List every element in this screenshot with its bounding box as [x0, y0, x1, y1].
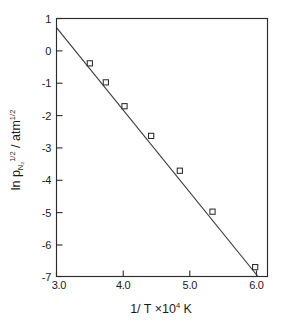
y-tick-label: -7	[42, 271, 51, 283]
y-tick-label: -1	[42, 77, 51, 89]
x-title-unit: K	[180, 302, 192, 316]
y-title-sup2: 1/2	[8, 110, 17, 120]
data-point	[210, 209, 215, 214]
plot-frame	[57, 19, 268, 277]
y-title-mid: / atm	[9, 120, 23, 151]
y-tick-label: 1	[45, 13, 51, 25]
y-tick-label: -2	[42, 110, 51, 122]
data-point	[122, 104, 127, 109]
y-tick-label: -5	[42, 207, 51, 219]
y-axis-title: ln pN₂1/2 / atm1/2	[8, 110, 25, 191]
y-tick-label: -4	[42, 174, 51, 186]
y-tick-label: 0	[45, 45, 51, 57]
data-markers	[87, 61, 258, 270]
data-point	[149, 133, 154, 138]
x-tick-label: 3.0	[52, 279, 67, 291]
y-tick-label: -3	[42, 142, 51, 154]
x-tick-label: 6.0	[249, 279, 264, 291]
data-point	[103, 80, 108, 85]
y-tick-label: -6	[42, 239, 51, 251]
chart-figure: 1 0 -1 -2 -3 -4 -5 -6 -7 3.0 4.0 5.0 6.0	[0, 0, 282, 328]
data-point	[253, 265, 258, 270]
x-tick-label: 4.0	[116, 279, 131, 291]
x-axis-ticks	[57, 271, 257, 277]
x-tick-label: 5.0	[183, 279, 198, 291]
y-axis-ticks	[57, 19, 63, 277]
svg-text:1/ T ×104 K: 1/ T ×104 K	[130, 301, 192, 316]
data-point	[87, 61, 92, 66]
y-title-sup: 1/2	[8, 151, 17, 161]
chart-svg: 1 0 -1 -2 -3 -4 -5 -6 -7 3.0 4.0 5.0 6.0	[0, 0, 282, 328]
svg-text:ln pN₂1/2 / atm1/2: ln pN₂1/2 / atm1/2	[8, 110, 25, 191]
x-axis-title: 1/ T ×104 K	[130, 301, 192, 316]
y-title-sub: N₂	[16, 162, 25, 170]
data-point	[177, 168, 182, 173]
x-title-main: 1/ T ×10	[130, 302, 176, 316]
y-title-lead: ln p	[9, 170, 23, 190]
y-axis-tick-labels: 1 0 -1 -2 -3 -4 -5 -6 -7	[42, 13, 51, 283]
x-axis-tick-labels: 3.0 4.0 5.0 6.0	[52, 279, 264, 291]
